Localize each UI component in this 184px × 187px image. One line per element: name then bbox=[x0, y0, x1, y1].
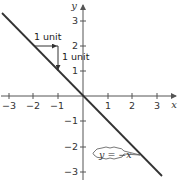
line-y-equals-negative-x bbox=[2, 13, 162, 176]
y-tick-label: −3 bbox=[64, 166, 78, 177]
graph-canvas: −3 −2 −1 1 2 3 x 3 2 1 −1 −2 −3 y 1 unit… bbox=[0, 0, 184, 187]
y-axis-label: y bbox=[70, 0, 77, 11]
x-tick-label: 1 bbox=[105, 100, 111, 111]
y-tick-label: −2 bbox=[64, 141, 78, 152]
run-label: 1 unit bbox=[34, 31, 62, 42]
x-axis-label: x bbox=[171, 99, 177, 110]
y-tick-label: 1 bbox=[72, 65, 78, 76]
y-tick-label: 2 bbox=[72, 40, 78, 51]
x-tick-label: −3 bbox=[2, 100, 16, 111]
y-tick-label: 3 bbox=[72, 15, 78, 26]
x-tick-label: 2 bbox=[129, 100, 135, 111]
x-tick-label: −2 bbox=[26, 100, 40, 111]
x-tick-label: 3 bbox=[154, 100, 160, 111]
x-tick-label: −1 bbox=[50, 100, 64, 111]
callout-label: y = −x bbox=[98, 149, 132, 160]
y-tick-label: −1 bbox=[64, 115, 78, 126]
rise-label: 1 unit bbox=[62, 51, 90, 62]
